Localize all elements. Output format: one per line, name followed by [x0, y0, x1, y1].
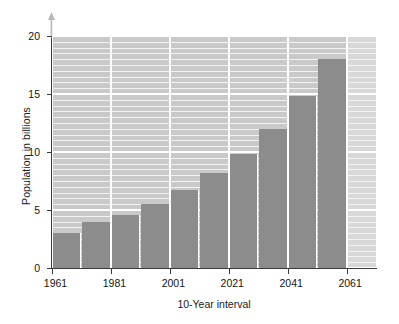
x-tick-mark	[288, 269, 289, 274]
bar	[289, 96, 316, 268]
gridline-minor	[52, 53, 376, 54]
plot-area	[52, 36, 376, 268]
bar-separator	[198, 190, 199, 268]
bar	[171, 190, 198, 268]
bar-separator	[139, 215, 140, 268]
x-tick-label: 2001	[151, 277, 195, 289]
bar	[53, 233, 80, 268]
bar-separator	[110, 222, 111, 268]
bar-separator	[316, 96, 317, 268]
bar	[141, 204, 168, 268]
gridline-minor	[52, 48, 376, 49]
gridline-major	[52, 36, 376, 37]
y-tick-label: 5	[14, 205, 40, 215]
bar-separator	[169, 204, 170, 268]
bar-separator	[287, 129, 288, 268]
y-tick-label: 15	[14, 89, 40, 99]
bar	[82, 222, 109, 268]
x-axis-title: 10-Year interval	[52, 298, 376, 310]
bar-separator	[80, 233, 81, 268]
x-tick-label: 1961	[34, 277, 78, 289]
bar	[200, 173, 227, 268]
gridline-minor	[52, 42, 376, 43]
bar-separator	[346, 59, 347, 268]
bar-chart: Population in billions 05101520 19611981…	[0, 0, 399, 324]
x-tick-mark	[170, 269, 171, 274]
x-tick-mark	[347, 269, 348, 274]
bar-separator	[228, 173, 229, 268]
bar	[259, 129, 286, 268]
y-tick-label: 0	[14, 263, 40, 273]
x-tick-mark	[52, 269, 53, 274]
x-axis-line	[51, 268, 377, 269]
bar-separator	[257, 154, 258, 268]
x-tick-label: 2021	[210, 277, 254, 289]
x-tick-label: 2041	[269, 277, 313, 289]
x-tick-mark	[111, 269, 112, 274]
x-tick-label: 2061	[328, 277, 372, 289]
bar	[112, 215, 139, 268]
x-tick-mark	[229, 269, 230, 274]
y-tick-label: 10	[14, 147, 40, 157]
bar	[318, 59, 345, 268]
up-arrow-icon	[47, 12, 56, 38]
bar	[230, 154, 257, 268]
y-tick-label: 20	[14, 31, 40, 41]
x-tick-label: 1981	[92, 277, 136, 289]
